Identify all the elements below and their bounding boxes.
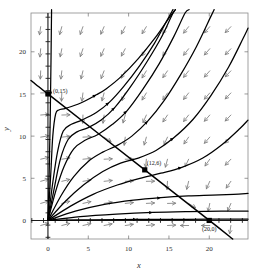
x-tick-label: 20 (206, 245, 214, 253)
equilibrium-label: (20,0) (202, 226, 217, 233)
y-tick-label: 10 (19, 133, 27, 141)
phase-portrait-svg: 0510152005101520 (0,15)(12,6)(20,0) x y (0, 0, 268, 272)
x-tick-label: 0 (46, 245, 50, 253)
y-tick-label: 5 (23, 175, 27, 183)
equilibrium-label: (12,6) (147, 160, 162, 167)
phase-portrait-figure: 0510152005101520 (0,15)(12,6)(20,0) x y (0, 0, 268, 272)
x-tick-label: 10 (125, 245, 133, 253)
equilibrium-marker (45, 91, 50, 96)
equilibrium-label: (0,15) (53, 88, 68, 95)
y-axis-title: y (1, 127, 11, 132)
y-tick-label: 0 (23, 217, 27, 225)
equilibrium-marker (207, 218, 212, 223)
x-tick-label: 5 (87, 245, 91, 253)
x-axis-title: x (136, 260, 141, 270)
equilibrium-marker (142, 167, 147, 172)
figure-background (0, 0, 268, 272)
y-tick-label: 20 (19, 48, 27, 56)
x-tick-label: 15 (165, 245, 173, 253)
y-tick-label: 15 (19, 91, 27, 99)
